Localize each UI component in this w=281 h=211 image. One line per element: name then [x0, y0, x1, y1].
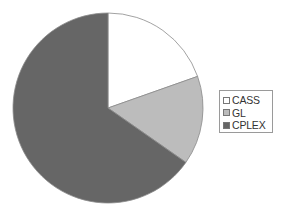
swatch-gl [223, 109, 230, 116]
swatch-cass [223, 97, 230, 104]
pie-chart [0, 0, 210, 211]
legend-item-gl: GL [223, 107, 272, 120]
legend-label: CPLEX [232, 119, 265, 131]
legend: CASS GL CPLEX [219, 90, 273, 133]
swatch-cplex [223, 122, 230, 129]
legend-item-cass: CASS [223, 94, 272, 107]
legend-label: GL [232, 107, 246, 119]
legend-item-cplex: CPLEX [223, 119, 272, 132]
legend-label: CASS [232, 94, 260, 106]
